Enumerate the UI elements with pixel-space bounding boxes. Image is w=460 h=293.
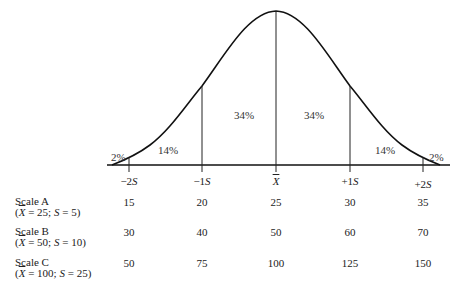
percent-34-left: 34% <box>234 109 254 121</box>
scale-b-value: 60 <box>345 226 356 238</box>
tick-minus1s: −1S <box>193 175 210 187</box>
scale-a-label: Scale A (X = 25; S = 5) <box>15 196 80 218</box>
percent-34-right: 34% <box>304 109 324 121</box>
percent-tail-right: 2% <box>429 151 444 163</box>
tick-minus2s: −2S <box>120 175 137 187</box>
scale-c-value: 100 <box>268 257 285 269</box>
scale-c-value: 50 <box>124 257 135 269</box>
scale-b-value: 70 <box>418 226 429 238</box>
percent-tail-left: 2% <box>111 151 126 163</box>
scale-c-value: 75 <box>197 257 208 269</box>
scale-a-value: 25 <box>271 196 282 208</box>
scale-c-value: 150 <box>415 257 432 269</box>
percent-14-left: 14% <box>158 144 178 156</box>
scale-a-value: 30 <box>345 196 356 208</box>
scale-a-value: 35 <box>418 196 429 208</box>
scale-c-label: Scale C (X = 100; S = 25) <box>15 257 91 279</box>
scale-a-value: 15 <box>124 196 135 208</box>
percent-14-right: 14% <box>375 144 395 156</box>
tick-plus2s: +2S <box>414 178 431 190</box>
tick-plus1s: +1S <box>341 175 358 187</box>
tick-mean: X <box>273 175 280 187</box>
scale-b-value: 30 <box>124 226 135 238</box>
scale-b-value: 50 <box>271 226 282 238</box>
scale-a-value: 20 <box>197 196 208 208</box>
scale-b-value: 40 <box>197 226 208 238</box>
scale-c-value: 125 <box>342 257 359 269</box>
scale-b-label: Scale B (X = 50; S = 10) <box>15 226 86 248</box>
